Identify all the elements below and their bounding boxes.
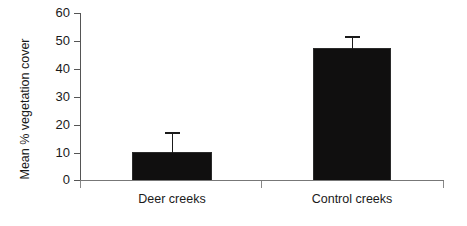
x-tick-divider	[261, 181, 262, 188]
y-tick-40	[74, 69, 80, 70]
y-tick-label-20-wrap: 20	[28, 118, 70, 132]
error-bar-stem-deer-creeks	[172, 133, 173, 153]
x-tick-end	[443, 181, 444, 188]
y-tick-20	[74, 125, 80, 126]
y-tick-label-10: 10	[28, 146, 70, 159]
x-tick-start	[80, 181, 81, 188]
error-bar-stem-control-creeks	[352, 37, 353, 49]
y-tick-label-0: 0	[28, 173, 70, 186]
y-tick-label-30-wrap: 30	[28, 90, 70, 104]
y-tick-label-40: 40	[28, 62, 70, 75]
bar-deer-creeks	[132, 152, 212, 181]
bar-chart: Mean % vegetation cover 60 50 40 30 20 1…	[0, 0, 467, 226]
y-tick-60	[74, 13, 80, 14]
y-tick-label-40-wrap: 40	[28, 62, 70, 76]
error-bar-cap-control-creeks	[345, 36, 360, 38]
y-tick-label-50: 50	[28, 34, 70, 47]
y-tick-10	[74, 153, 80, 154]
error-bar-cap-deer-creeks	[165, 132, 180, 134]
y-tick-30	[74, 97, 80, 98]
y-tick-50	[74, 41, 80, 42]
x-category-label-deer-creeks: Deer creeks	[112, 192, 232, 206]
y-tick-label-50-wrap: 50	[28, 34, 70, 48]
y-tick-label-60-wrap: 60	[28, 6, 70, 20]
y-tick-label-0-wrap: 0	[28, 173, 70, 187]
y-tick-label-10-wrap: 10	[28, 146, 70, 160]
y-tick-label-30: 30	[28, 90, 70, 103]
bar-control-creeks	[313, 48, 391, 181]
x-axis-line	[80, 180, 444, 181]
y-axis-line	[80, 13, 81, 181]
y-tick-label-60: 60	[28, 6, 70, 19]
x-category-label-control-creeks: Control creeks	[292, 192, 412, 206]
y-tick-label-20: 20	[28, 118, 70, 131]
